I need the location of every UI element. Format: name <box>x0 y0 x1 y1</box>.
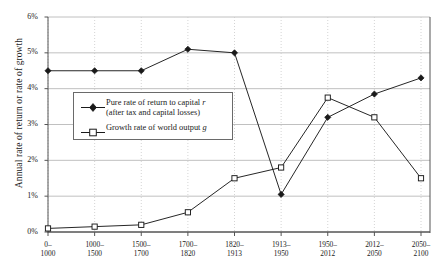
x-tick-label-line2: 1700 <box>134 249 149 258</box>
data-point-marker-r <box>418 75 424 81</box>
data-point-marker-g <box>232 176 237 181</box>
chart-figure: Annual rate of return or rate of growth … <box>0 0 439 274</box>
data-point-marker-g <box>279 165 284 170</box>
y-axis-tick-labels: 0%1%2%3%4%5%6% <box>6 0 38 274</box>
x-tick-label-line2: 2100 <box>414 249 429 258</box>
y-tick-label: 1% <box>10 192 38 200</box>
x-tick-label-line1: 1700– <box>179 240 197 249</box>
x-tick-label-line2: 2012 <box>320 249 335 258</box>
y-tick-label: 6% <box>10 13 38 21</box>
x-tick-label-line2: 1000 <box>41 249 56 258</box>
legend-symbol-g: g <box>203 123 207 132</box>
x-tick-label: 1950–2012 <box>306 240 350 259</box>
data-point-marker-g <box>372 115 377 120</box>
chart-legend: Pure rate of return to capital r(after t… <box>73 92 233 140</box>
data-point-marker-g <box>325 95 330 100</box>
x-tick-label: 1913–1950 <box>259 240 303 259</box>
open-square-marker-icon <box>80 124 106 135</box>
x-tick-label: 2050–2100 <box>399 240 439 259</box>
data-point-marker-g <box>418 176 423 181</box>
x-tick-label-line1: 2050– <box>412 240 430 249</box>
x-tick-label-line1: 1500– <box>132 240 150 249</box>
y-tick-label: 4% <box>10 84 38 92</box>
data-point-marker-r <box>231 50 237 56</box>
legend-label-g: Growth rate of world output g <box>106 123 207 133</box>
y-tick-label: 5% <box>10 48 38 56</box>
data-point-marker-g <box>185 210 190 215</box>
legend-symbol-r: r <box>202 98 205 107</box>
x-tick-label-line1: 1000– <box>85 240 103 249</box>
legend-label-r-line2: (after tax and capital losses) <box>106 108 200 117</box>
x-tick-label: 1000–1500 <box>73 240 117 259</box>
x-tick-label-line2: 2050 <box>367 249 382 258</box>
x-tick-label-line1: 2012– <box>365 240 383 249</box>
data-point-marker-r <box>185 46 191 52</box>
x-tick-label: 2012–2050 <box>352 240 396 259</box>
x-tick-label-line1: 1950– <box>319 240 337 249</box>
x-tick-label-line1: 1913– <box>272 240 290 249</box>
data-point-marker-g <box>45 226 50 231</box>
x-tick-label-line2: 1500 <box>87 249 102 258</box>
x-tick-label-line2: 1913 <box>227 249 242 258</box>
x-tick-label: 1700–1820 <box>166 240 210 259</box>
y-tick-label: 0% <box>10 228 38 236</box>
legend-label-r: Pure rate of return to capital r(after t… <box>106 98 206 119</box>
x-tick-label: 1820–1913 <box>213 240 257 259</box>
data-point-marker-r <box>371 91 377 97</box>
data-point-marker-g <box>139 222 144 227</box>
legend-label-r-line1: Pure rate of return to capital <box>106 98 202 107</box>
y-tick-label: 3% <box>10 120 38 128</box>
x-tick-label: 1500–1700 <box>119 240 163 259</box>
x-tick-label: 0–1000 <box>26 240 70 259</box>
x-tick-label-line1: 0– <box>44 240 51 249</box>
y-tick-label: 2% <box>10 156 38 164</box>
filled-diamond-marker-icon <box>80 99 106 110</box>
data-point-marker-r <box>92 68 98 74</box>
data-point-marker-g <box>92 224 97 229</box>
data-point-marker-r <box>45 68 51 74</box>
legend-label-g-line1: Growth rate of world output <box>106 123 203 132</box>
x-tick-label-line2: 1950 <box>274 249 289 258</box>
x-tick-label-line1: 1820– <box>225 240 243 249</box>
data-point-marker-r <box>325 114 331 120</box>
legend-entry-r: Pure rate of return to capital r(after t… <box>80 98 206 119</box>
x-tick-label-line2: 1820 <box>180 249 195 258</box>
data-point-marker-r <box>138 68 144 74</box>
legend-entry-g: Growth rate of world output g <box>80 123 207 134</box>
